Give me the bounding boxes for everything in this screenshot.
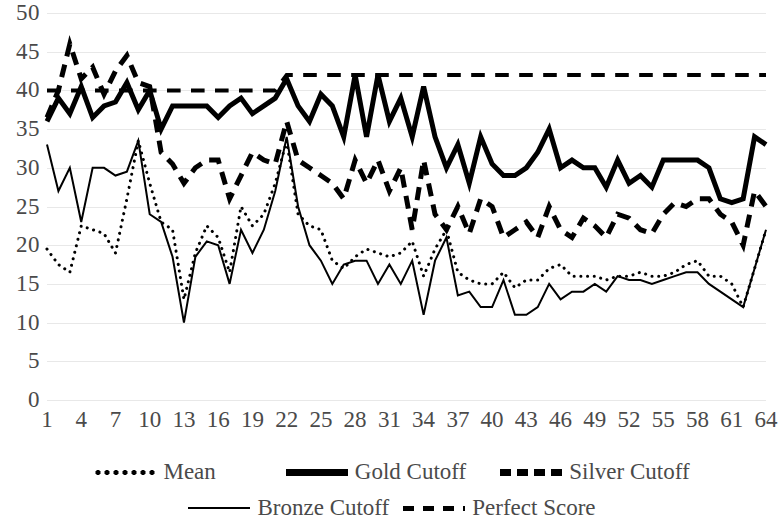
chart-legend: MeanGold CutoffSilver Cutoff Bronze Cuto… (0, 452, 784, 530)
x-tick-label: 58 (686, 406, 709, 434)
x-tick-label: 31 (378, 406, 401, 434)
legend-swatch-solid-thin-icon (188, 507, 250, 509)
y-axis: 50454035302520151050 (0, 0, 40, 400)
legend-swatch-dotted-icon (94, 468, 156, 477)
gridline (47, 400, 766, 401)
x-tick-label: 49 (583, 406, 606, 434)
series-line-perfect-score (47, 75, 766, 90)
legend-row-bottom: Bronze CutoffPerfect Score (0, 490, 784, 526)
y-tick-label: 5 (0, 349, 40, 372)
y-tick-label: 45 (0, 40, 40, 63)
series-line-gold-cutoff (47, 75, 766, 203)
legend-item-bronze-cutoff[interactable]: Bronze Cutoff (188, 495, 389, 521)
legend-label: Mean (163, 459, 215, 485)
legend-item-gold-cutoff[interactable]: Gold Cutoff (286, 459, 466, 485)
legend-label: Silver Cutoff (569, 459, 689, 485)
x-tick-label: 1 (41, 406, 53, 434)
legend-row-top: MeanGold CutoffSilver Cutoff (0, 454, 784, 490)
x-tick-label: 25 (309, 406, 332, 434)
x-tick-label: 7 (110, 406, 122, 434)
y-tick-label: 0 (0, 388, 40, 411)
legend-label: Bronze Cutoff (257, 495, 389, 521)
y-tick-label: 15 (0, 272, 40, 295)
y-tick-label: 50 (0, 1, 40, 24)
y-tick-label: 25 (0, 195, 40, 218)
plot-area (47, 13, 766, 400)
legend-item-perfect-score[interactable]: Perfect Score (403, 495, 595, 521)
legend-item-mean[interactable]: Mean (94, 459, 215, 485)
x-tick-label: 37 (446, 406, 469, 434)
legend-label: Gold Cutoff (355, 459, 466, 485)
legend-item-silver-cutoff[interactable]: Silver Cutoff (500, 459, 689, 485)
x-tick-label: 28 (344, 406, 367, 434)
x-tick-label: 46 (549, 406, 572, 434)
x-tick-label: 52 (618, 406, 641, 434)
y-tick-label: 40 (0, 78, 40, 101)
legend-swatch-dashed-icon (403, 506, 465, 511)
x-tick-label: 64 (755, 406, 778, 434)
x-tick-label: 10 (138, 406, 161, 434)
x-tick-label: 55 (652, 406, 675, 434)
y-tick-label: 35 (0, 117, 40, 140)
x-tick-label: 61 (720, 406, 743, 434)
x-tick-label: 19 (241, 406, 264, 434)
x-tick-label: 13 (173, 406, 196, 434)
chart-container: 50454035302520151050 1471013161922252831… (0, 0, 784, 530)
x-tick-label: 40 (481, 406, 504, 434)
x-tick-label: 34 (412, 406, 435, 434)
y-tick-label: 20 (0, 233, 40, 256)
legend-swatch-dashed-thick-icon (500, 469, 562, 476)
series-layer (47, 13, 766, 400)
x-tick-label: 22 (275, 406, 298, 434)
series-line-bronze-cutoff (47, 137, 766, 323)
legend-label: Perfect Score (472, 495, 595, 521)
x-tick-label: 16 (207, 406, 230, 434)
x-axis: 1471013161922252831343740434649525558616… (47, 406, 766, 440)
legend-swatch-solid-thick-icon (286, 469, 348, 476)
y-tick-label: 10 (0, 311, 40, 334)
y-tick-label: 30 (0, 156, 40, 179)
x-tick-label: 4 (75, 406, 87, 434)
x-tick-label: 43 (515, 406, 538, 434)
